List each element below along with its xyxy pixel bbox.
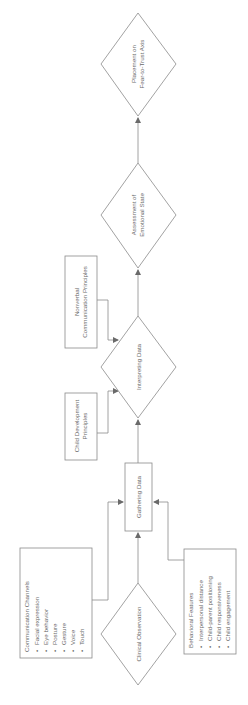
node-behavioral-features: Behavioral Features • Interpersonal dist… xyxy=(184,549,236,654)
node-label: Gathering Data xyxy=(135,475,142,518)
list-item: Posture xyxy=(51,623,58,645)
list-item: Voice xyxy=(69,629,76,645)
flowchart: Clinical Observation Gathering Data Inte… xyxy=(0,0,248,705)
node-placement-fear-trust: Placement on Fear-to-Trust Axis xyxy=(101,13,176,116)
list-item: Touch xyxy=(78,628,85,645)
node-assessment-emotional-state: Assessment of Emotional State xyxy=(101,163,176,268)
node-label-line2: Emotional State xyxy=(138,193,145,237)
node-label-line2: Communication Principles xyxy=(81,266,88,338)
list-item: Eye behavior xyxy=(42,609,49,645)
edge-childdev-to-interpreting xyxy=(97,391,118,433)
bullet-icon: • xyxy=(42,650,49,652)
bullet-icon: • xyxy=(197,646,204,648)
node-nonverbal-communication: Nonverbal Communication Principles xyxy=(65,256,97,348)
list-title: Behavioral Features xyxy=(187,593,194,648)
node-clinical-observation: Clinical Observation xyxy=(101,583,176,685)
bullet-icon: • xyxy=(206,646,213,648)
node-gathering-data: Gathering Data xyxy=(125,463,152,531)
list-item: Gesture xyxy=(60,622,67,645)
bullet-icon: • xyxy=(78,650,85,652)
node-label-line2: Principles xyxy=(81,413,88,440)
edge-behavioral-to-gathering xyxy=(154,502,184,560)
node-label-line1: Assessment of xyxy=(130,194,137,235)
bullet-icon: • xyxy=(215,646,222,648)
node-child-development: Child Development Principles xyxy=(65,393,97,460)
bullet-icon: • xyxy=(33,650,40,652)
list-item: Child responsiveness xyxy=(215,582,222,641)
list-title: Communication Channels xyxy=(23,581,30,652)
bullet-icon: • xyxy=(60,650,67,652)
node-label-line1: Child Development xyxy=(73,400,80,453)
node-communication-channels: Communication Channels • Facial expressi… xyxy=(20,548,92,658)
list-item: Interpersonal distance xyxy=(197,580,204,641)
list-item: Child engagement xyxy=(224,590,231,641)
list-item: Child-parent positioning xyxy=(206,575,213,641)
node-label-line1: Placement on xyxy=(130,45,137,83)
edge-communication-to-gathering xyxy=(92,502,123,600)
node-label: Interpreting Data xyxy=(135,343,142,390)
list-item: Facial expression xyxy=(33,596,40,645)
edge-nonverbal-to-interpreting xyxy=(97,300,118,340)
bullet-icon: • xyxy=(51,650,58,652)
bullet-icon: • xyxy=(69,650,76,652)
bullet-icon: • xyxy=(224,646,231,648)
node-label-line1: Nonverbal xyxy=(73,288,80,316)
node-label-line2: Fear-to-Trust Axis xyxy=(138,40,145,89)
node-interpreting-data: Interpreting Data xyxy=(101,316,176,418)
node-label: Clinical Observation xyxy=(135,606,142,662)
